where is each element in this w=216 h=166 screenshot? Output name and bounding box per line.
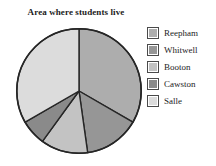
legend-item-reepham[interactable]: Reepham [147, 24, 216, 41]
chart-title: Area where students live [0, 7, 152, 18]
legend-item-salle[interactable]: Salle [147, 92, 216, 109]
legend-label-booton: Booton [164, 62, 191, 72]
pie-chart-graphic [15, 27, 143, 155]
legend-item-cawston[interactable]: Cawston [147, 75, 216, 92]
legend-swatch-whitwell [147, 44, 159, 56]
pie-chart-screenshot: Area where students live Reepham Whitwel… [0, 0, 216, 166]
legend-swatch-booton [147, 61, 159, 73]
chart-legend: Reepham Whitwell Booton Cawston Salle [147, 24, 216, 109]
legend-swatch-cawston [147, 78, 159, 90]
legend-label-salle: Salle [164, 96, 182, 106]
pie-svg [15, 27, 143, 155]
legend-item-booton[interactable]: Booton [147, 58, 216, 75]
legend-label-cawston: Cawston [164, 79, 196, 89]
legend-swatch-reepham [147, 27, 159, 39]
legend-swatch-salle [147, 95, 159, 107]
legend-label-whitwell: Whitwell [164, 45, 198, 55]
legend-label-reepham: Reepham [164, 28, 198, 38]
legend-item-whitwell[interactable]: Whitwell [147, 41, 216, 58]
